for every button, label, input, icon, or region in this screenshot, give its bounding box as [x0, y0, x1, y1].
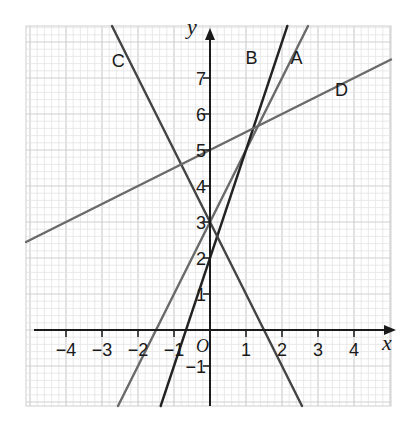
y-tick-label: 2 — [196, 249, 206, 269]
y-axis-label: y — [185, 14, 197, 39]
y-tick-label: 7 — [196, 69, 206, 89]
x-tick-label: 3 — [313, 340, 323, 360]
x-tick-label: −3 — [92, 340, 113, 360]
x-tick-label: 2 — [277, 340, 287, 360]
series-label-d: D — [335, 80, 348, 100]
y-tick-label: 3 — [196, 213, 206, 233]
x-tick-label: −2 — [128, 340, 149, 360]
x-axis-label: x — [381, 330, 392, 355]
series-label-a: A — [290, 48, 302, 68]
x-tick-label: 4 — [349, 340, 359, 360]
y-tick-label: −1 — [185, 357, 206, 377]
y-tick-label: 4 — [196, 177, 206, 197]
x-tick-label: 1 — [241, 340, 251, 360]
series-label-c: C — [112, 51, 125, 71]
y-axis-arrow-icon — [205, 28, 215, 40]
x-tick-label: −4 — [56, 340, 77, 360]
x-tick-label: −1 — [164, 340, 185, 360]
y-tick-label: 6 — [196, 105, 206, 125]
y-tick-label: 5 — [196, 141, 206, 161]
series-label-b: B — [245, 48, 257, 68]
y-tick-label: 1 — [196, 285, 206, 305]
line-chart: −4−3−2−11234−11234567 x y O ABCD — [0, 0, 419, 433]
origin-label: O — [196, 336, 209, 356]
